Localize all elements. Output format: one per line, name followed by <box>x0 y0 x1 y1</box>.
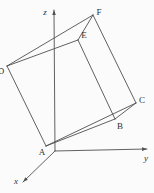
vertex-label-A: A <box>39 147 46 157</box>
edge-D-F <box>7 15 93 66</box>
axis-label-x: x <box>13 176 18 186</box>
vertex-label-F: F <box>96 7 101 17</box>
vertex-label-E: E <box>81 30 87 40</box>
edge-E-B <box>78 40 115 119</box>
prism-axes-figure: zyxABCDEF <box>0 0 154 193</box>
edge-A-B <box>46 119 115 146</box>
vertex-label-B: B <box>117 121 123 131</box>
y-axis <box>55 149 147 151</box>
vertex-label-C: C <box>139 95 145 105</box>
axis-label-y: y <box>143 153 148 163</box>
z-axis <box>54 10 55 151</box>
vertex-label-D: D <box>0 66 5 76</box>
figure-canvas: zyxABCDEF <box>0 0 154 193</box>
edge-B-C <box>115 103 136 119</box>
edge-D-E <box>7 40 78 66</box>
edge-D-A <box>7 66 46 146</box>
z-axis-arrowhead <box>52 10 56 15</box>
edge-F-C <box>93 15 136 103</box>
axis-label-z: z <box>42 7 47 17</box>
y-axis-arrowhead <box>142 147 147 151</box>
